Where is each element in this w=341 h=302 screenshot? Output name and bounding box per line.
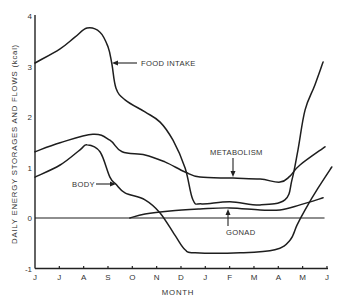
label-gonad: GONAD (226, 228, 256, 237)
energy-flow-chart: JJASONDJFMAMJ 43210-1 DAILY ENERGY STORA… (0, 0, 341, 302)
y-tick-label: 1 (28, 164, 33, 173)
label-metabolism: METABOLISM (210, 148, 263, 157)
x-tick-label: M (299, 273, 306, 282)
y-tick-label: 3 (28, 63, 33, 72)
x-tick-label: J (33, 273, 37, 282)
x-tick-label: A (276, 273, 282, 282)
annotation-body: BODY (72, 180, 116, 189)
y-tick-label: 4 (28, 12, 33, 21)
x-tick-label: J (203, 273, 207, 282)
y-tick-label: 0 (28, 214, 33, 223)
series-body (35, 145, 332, 254)
y-tick-label: 2 (28, 113, 33, 122)
y-axis-title: DAILY ENERGY STORAGES AND FLOWS (kcal) (10, 44, 19, 244)
label-food-intake: FOOD INTAKE (141, 59, 196, 68)
x-tick-label: J (57, 273, 61, 282)
label-body: BODY (72, 180, 95, 189)
series-metabolism (35, 134, 325, 182)
arrowhead-icon (226, 209, 231, 215)
x-tick-label: N (154, 273, 160, 282)
x-tick-label: M (251, 273, 258, 282)
x-axis-title: MONTH (162, 288, 194, 297)
x-tick-label: O (129, 273, 135, 282)
series-food-intake (35, 28, 323, 205)
annotation-food-intake: FOOD INTAKE (112, 59, 196, 68)
x-tick-label: F (227, 273, 232, 282)
arrowhead-icon (112, 61, 118, 66)
annotation-metabolism: METABOLISM (210, 148, 263, 177)
x-tick-label: J (325, 273, 329, 282)
annotation-gonad: GONAD (226, 209, 256, 237)
y-axis-ticks: 43210-1 (25, 12, 33, 274)
x-tick-label: S (105, 273, 110, 282)
y-tick-label: -1 (25, 265, 33, 274)
arrowhead-icon (231, 171, 236, 177)
x-tick-label: D (178, 273, 184, 282)
x-tick-label: A (81, 273, 87, 282)
